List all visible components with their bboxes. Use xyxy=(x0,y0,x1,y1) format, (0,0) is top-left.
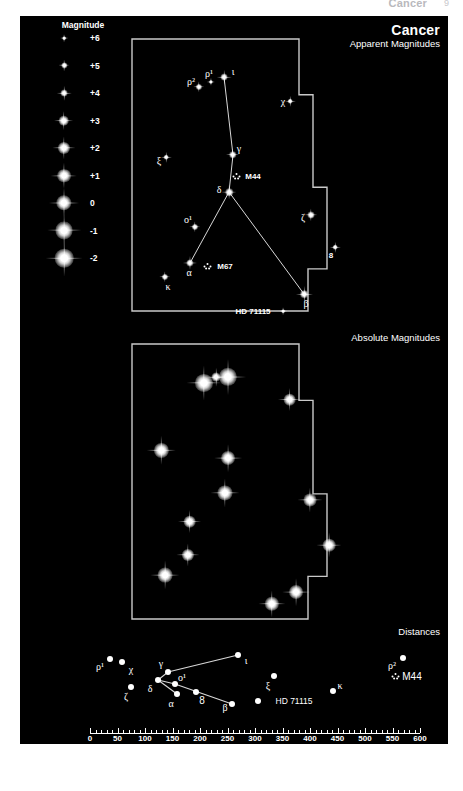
axis-tick-minor xyxy=(101,730,102,733)
star-core xyxy=(184,516,196,528)
star-glyph xyxy=(279,389,302,412)
axis-tick-major xyxy=(173,728,174,733)
star-core xyxy=(211,372,221,382)
axis-tick-label: 50 xyxy=(113,734,122,743)
stick-figure-line xyxy=(229,192,304,294)
star-glyph xyxy=(211,479,240,508)
axis-tick-minor xyxy=(299,730,300,733)
star-label: γ xyxy=(237,143,241,154)
star-glyph xyxy=(279,307,287,315)
axis-tick-major xyxy=(338,728,339,733)
star-glyph xyxy=(284,95,295,106)
star-label: β xyxy=(303,298,308,309)
star-glyph xyxy=(305,209,318,222)
star-glyph xyxy=(282,578,310,606)
star-glyph xyxy=(160,151,171,162)
axis-tick-minor xyxy=(195,730,196,733)
star-core xyxy=(192,224,197,229)
star-label: ξ xyxy=(157,155,161,166)
axis-tick-minor xyxy=(134,730,135,733)
axis-tick-minor xyxy=(376,730,377,733)
star-label: δ xyxy=(217,184,222,195)
axis-tick-major xyxy=(310,728,311,733)
star-label: ρ¹ xyxy=(205,68,213,79)
star-core xyxy=(230,152,237,159)
axis-tick-label: 350 xyxy=(276,734,289,743)
axis-tick-label: 600 xyxy=(413,734,426,743)
star-core xyxy=(304,494,316,506)
axis-tick-label: 550 xyxy=(386,734,399,743)
axis-tick-minor xyxy=(112,730,113,733)
axis-tick-label: 450 xyxy=(331,734,344,743)
star-glyph xyxy=(259,591,286,618)
star-glyph xyxy=(177,544,200,567)
star-label: κ xyxy=(165,281,170,292)
axis-tick-minor xyxy=(387,730,388,733)
star-core xyxy=(289,585,303,599)
axis-caption: Distance (ly) xyxy=(230,746,280,756)
star-core xyxy=(308,212,314,218)
axis-tick-minor xyxy=(189,730,190,733)
axis-tick-major xyxy=(90,728,91,733)
axis-tick-minor xyxy=(178,730,179,733)
axis-tick-label: 500 xyxy=(358,734,371,743)
star-label: χ xyxy=(281,96,285,107)
star-core xyxy=(182,549,194,561)
page-header: Cancer 9 xyxy=(0,0,463,14)
axis-tick-minor xyxy=(184,730,185,733)
axis-tick-minor xyxy=(294,730,295,733)
axis-tick-minor xyxy=(140,730,141,733)
axis-tick-label: 0 xyxy=(88,734,92,743)
axis-tick-major xyxy=(255,728,256,733)
star-glyph xyxy=(206,367,225,386)
panel-absolute-magnitudes: Absolute Magnitudes xyxy=(20,326,448,626)
axis-tick-minor xyxy=(360,730,361,733)
axis-tick-minor xyxy=(404,730,405,733)
star-glyph xyxy=(216,69,231,84)
star-core xyxy=(186,259,193,266)
stick-figure-line xyxy=(224,77,233,155)
axis-tick-minor xyxy=(327,730,328,733)
star-core xyxy=(220,73,228,81)
star-label: ι xyxy=(232,66,235,77)
axis-tick-minor xyxy=(156,730,157,733)
open-cluster-icon xyxy=(203,262,214,271)
axis-tick-major xyxy=(145,728,146,733)
axis-tick-minor xyxy=(244,730,245,733)
axis-tick-minor xyxy=(96,730,97,733)
star-glyph xyxy=(316,532,342,558)
star-core xyxy=(218,486,233,501)
star-glyph xyxy=(298,488,322,512)
axis-tick-minor xyxy=(211,730,212,733)
panel-apparent-magnitudes: Cancer Apparent Magnitudes ρ²ρ¹ιχξγM44δο… xyxy=(20,16,448,326)
distance-axis: 050100150200250300350400450500550600 Dis… xyxy=(20,626,448,744)
star-core xyxy=(162,274,167,279)
axis-tick-minor xyxy=(266,730,267,733)
panel-distances: Distances ρ¹χζδγο¹α8ιβξHD 71115κρ²M44 05… xyxy=(20,626,448,744)
star-core xyxy=(265,597,279,611)
axis-tick-minor xyxy=(206,730,207,733)
axis-tick-minor xyxy=(261,730,262,733)
star-label: 8 xyxy=(329,251,333,260)
axis-tick-minor xyxy=(288,730,289,733)
axis-tick-label: 150 xyxy=(166,734,179,743)
axis-tick-minor xyxy=(239,730,240,733)
axis-tick-minor xyxy=(222,730,223,733)
star-glyph xyxy=(179,511,202,534)
open-cluster-icon xyxy=(232,172,243,181)
axis-tick-minor xyxy=(382,730,383,733)
chart-plate: Magnitude +6+5+4+3+2+10-1-2 Cancer Appar… xyxy=(20,16,448,744)
axis-tick-minor xyxy=(354,730,355,733)
star-label: HD 71115 xyxy=(235,307,270,316)
star-label: M67 xyxy=(217,262,233,271)
star-core xyxy=(284,394,296,406)
axis-tick-minor xyxy=(398,730,399,733)
axis-tick-minor xyxy=(349,730,350,733)
axis-tick-minor xyxy=(277,730,278,733)
axis-tick-minor xyxy=(233,730,234,733)
page-header-title: Cancer xyxy=(389,0,428,9)
star-core xyxy=(332,244,338,250)
axis-tick-minor xyxy=(305,730,306,733)
axis-tick-major xyxy=(200,728,201,733)
axis-tick-minor xyxy=(107,730,108,733)
